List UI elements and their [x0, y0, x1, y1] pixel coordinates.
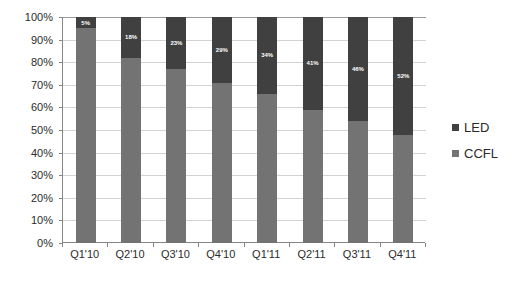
bar-data-label: 41% [307, 60, 319, 66]
y-axis-tick [59, 198, 63, 199]
legend-label: LED [464, 121, 489, 134]
x-axis-tick [244, 243, 245, 247]
y-axis-tick [59, 17, 63, 18]
x-axis-category-label: Q2'11 [289, 248, 334, 270]
x-axis-category-label: Q2'10 [107, 248, 152, 270]
y-axis-tick [59, 40, 63, 41]
bar-stack[interactable]: 34%66% [257, 17, 277, 243]
bar-segment-ccfl[interactable]: 77% [166, 69, 186, 243]
x-axis-category-label: Q1'11 [244, 248, 289, 270]
x-axis-category-label: Q3'11 [334, 248, 379, 270]
y-axis-tick-label: 80% [31, 56, 53, 68]
bar-slot: 5%95% [63, 17, 108, 243]
bar-data-label: 34% [261, 52, 273, 58]
bar-data-label: 46% [352, 66, 364, 72]
legend-item-led[interactable]: LED [452, 120, 522, 134]
y-axis-tick-label: 90% [31, 34, 53, 46]
x-axis-tick [62, 243, 63, 247]
bar-slot: 18%82% [108, 17, 153, 243]
plot-area: 5%95%18%82%23%77%29%71%34%66%41%59%46%54… [62, 17, 425, 243]
bar-segment-ccfl[interactable]: 59% [303, 110, 323, 243]
y-axis-tick [59, 107, 63, 108]
legend-item-ccfl[interactable]: CCFL [452, 146, 522, 160]
y-axis-tick [59, 220, 63, 221]
bar-stack[interactable]: 23%77% [166, 17, 186, 243]
x-axis-tick [425, 243, 426, 247]
bar-data-label: 23% [170, 40, 182, 46]
bar-segment-led[interactable]: 34% [257, 17, 277, 94]
y-axis-tick-label: 60% [31, 101, 53, 113]
y-axis-tick-label: 20% [31, 192, 53, 204]
bar-segment-led[interactable]: 46% [348, 17, 368, 121]
x-axis-tick [198, 243, 199, 247]
bar-stack[interactable]: 18%82% [121, 17, 141, 243]
legend-swatch-icon [452, 150, 459, 157]
bar-segment-led[interactable]: 5% [76, 17, 96, 28]
bar-segment-led[interactable]: 23% [166, 17, 186, 69]
x-axis-tick [153, 243, 154, 247]
bar-segment-ccfl[interactable]: 54% [348, 121, 368, 243]
y-axis-tick-label: 30% [31, 169, 53, 181]
x-axis-tick [107, 243, 108, 247]
bar-stack[interactable]: 52%48% [393, 17, 413, 243]
bar-group: 5%95%18%82%23%77%29%71%34%66%41%59%46%54… [63, 17, 426, 243]
x-axis-category-label: Q4'10 [198, 248, 243, 270]
x-axis-tick [289, 243, 290, 247]
chart-legend: LEDCCFL [452, 120, 522, 172]
bar-slot: 23%77% [154, 17, 199, 243]
bar-segment-ccfl[interactable]: 48% [393, 135, 413, 243]
y-axis-tick-label: 70% [31, 79, 53, 91]
y-axis-tick-label: 100% [25, 11, 53, 23]
x-axis-category-label: Q1'10 [62, 248, 107, 270]
bar-stack[interactable]: 5%95% [76, 17, 96, 243]
bar-stack[interactable]: 41%59% [303, 17, 323, 243]
x-axis-label-group: Q1'10Q2'10Q3'10Q4'10Q1'11Q2'11Q3'11Q4'11 [62, 248, 425, 270]
bar-segment-led[interactable]: 41% [303, 17, 323, 110]
y-axis-tick-label: 0% [37, 237, 53, 249]
y-axis-label-group: 100%90%80%70%60%50%40%30%20%10%0% [0, 17, 58, 243]
bar-slot: 52%48% [381, 17, 426, 243]
y-axis-tick [59, 85, 63, 86]
x-axis-tick [334, 243, 335, 247]
chart-container: 100%90%80%70%60%50%40%30%20%10%0% 5%95%1… [0, 0, 523, 284]
bar-slot: 41%59% [290, 17, 335, 243]
bar-data-label: 29% [216, 47, 228, 53]
bar-segment-led[interactable]: 29% [212, 17, 232, 83]
bar-slot: 34%66% [245, 17, 290, 243]
bar-segment-ccfl[interactable]: 82% [121, 58, 141, 243]
y-axis-tick-label: 40% [31, 147, 53, 159]
bar-data-label: 5% [81, 20, 90, 26]
bar-segment-led[interactable]: 18% [121, 17, 141, 58]
y-axis-tick [59, 62, 63, 63]
bar-stack[interactable]: 46%54% [348, 17, 368, 243]
bar-segment-ccfl[interactable]: 95% [76, 28, 96, 243]
x-axis-tick [380, 243, 381, 247]
y-axis-tick-label: 10% [31, 214, 53, 226]
bar-data-label: 52% [397, 73, 409, 79]
bar-segment-ccfl[interactable]: 71% [212, 83, 232, 243]
bar-stack[interactable]: 29%71% [212, 17, 232, 243]
legend-swatch-icon [452, 124, 459, 131]
x-axis-category-label: Q3'10 [153, 248, 198, 270]
y-axis-tick [59, 130, 63, 131]
y-axis-tick-label: 50% [31, 124, 53, 136]
x-axis-category-label: Q4'11 [380, 248, 425, 270]
legend-label: CCFL [464, 147, 498, 160]
y-axis-tick [59, 175, 63, 176]
bar-segment-ccfl[interactable]: 66% [257, 94, 277, 243]
bar-segment-led[interactable]: 52% [393, 17, 413, 135]
bar-slot: 29%71% [199, 17, 244, 243]
bar-slot: 46%54% [335, 17, 380, 243]
y-axis-tick [59, 153, 63, 154]
bar-data-label: 18% [125, 34, 137, 40]
